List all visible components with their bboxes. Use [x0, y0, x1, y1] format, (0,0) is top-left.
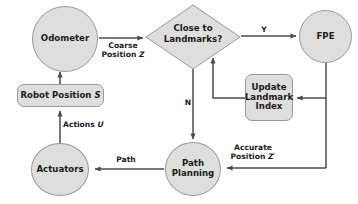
node-actuators[interactable]: Actuators: [31, 143, 89, 196]
edge-label-yes: Y: [258, 25, 270, 34]
node-close-to-landmarks-label-line1: Close to: [145, 24, 241, 34]
node-fpe[interactable]: FPE: [299, 10, 352, 63]
diagram-canvas: Odometer Close to Landmarks? FPE Update …: [0, 0, 358, 204]
node-fpe-label: FPE: [316, 32, 334, 42]
node-close-to-landmarks-label-line2: Landmarks?: [145, 35, 241, 45]
node-close-to-landmarks[interactable]: Close to Landmarks?: [145, 4, 241, 70]
node-update-landmark-index-label-line3: Index: [256, 102, 283, 112]
edge-label-path: Path: [110, 155, 142, 164]
edge-label-coarse-position-line1: Coarse: [98, 41, 148, 50]
edge-label-no: N: [182, 98, 194, 107]
edge-label-actions: Actions U: [63, 120, 113, 129]
node-actuators-label: Actuators: [36, 165, 83, 175]
edge-label-coarse-position: Coarse Position Z: [98, 41, 148, 59]
node-odometer[interactable]: Odometer: [32, 6, 98, 72]
edge-label-accurate-position: Accurate Position Z′: [222, 143, 284, 161]
node-path-planning-label-line2: Planning: [172, 169, 215, 179]
edge-label-accurate-position-line2: Position Z′: [222, 152, 284, 161]
edge-label-coarse-position-line2: Position Z: [98, 50, 148, 59]
node-robot-position-symbol: S: [94, 90, 100, 100]
node-odometer-label: Odometer: [41, 34, 89, 44]
node-robot-position[interactable]: Robot Position S: [17, 84, 104, 107]
node-robot-position-label: Robot Position S: [20, 91, 100, 101]
edge-label-accurate-position-line1: Accurate: [222, 143, 284, 152]
node-path-planning[interactable]: Path Planning: [165, 142, 221, 196]
node-update-landmark-index[interactable]: Update Landmark Index: [245, 74, 293, 121]
